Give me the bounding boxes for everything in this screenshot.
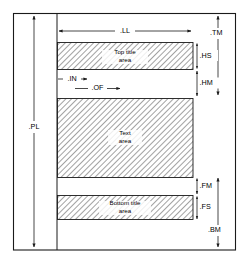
dimension-fm: .FM	[197, 179, 220, 195]
dimension-fm-label: .FM	[200, 181, 212, 190]
block-bottom-title-label-1: Bottom title	[110, 199, 142, 206]
block-bottom-title: Bottom title area	[58, 196, 194, 220]
dimension-fs: .FS	[197, 197, 217, 220]
block-top-title-label-1: Top title	[114, 48, 136, 55]
block-text-area-label-2: area	[119, 137, 132, 144]
dimension-hs: .HS	[197, 44, 218, 69]
dimension-hm: .HM	[197, 71, 220, 96]
dimension-tm-label: .TM	[210, 28, 222, 37]
dimension-of-label: .OF	[92, 83, 105, 92]
dimension-hm-label: .HM	[200, 78, 213, 87]
dimension-pl-label: .PL	[29, 122, 40, 131]
block-text-area: Text area	[58, 99, 194, 178]
dimension-in: .IN	[58, 74, 87, 85]
page-layout-diagram: .PL .LL Top title area .TM .HS	[0, 0, 249, 265]
dimension-in-label: .IN	[67, 74, 76, 83]
dimension-bm-label: .BM	[208, 225, 221, 234]
dimension-fs-label: .FS	[200, 202, 211, 211]
block-text-area-label-1: Text	[119, 129, 131, 136]
dimension-ll: .LL	[59, 26, 191, 37]
dimension-pl: .PL	[25, 16, 43, 247]
block-top-title-label-2: area	[119, 56, 132, 63]
block-bottom-title-label-2: area	[119, 207, 132, 214]
dimension-ll-label: .LL	[120, 26, 130, 35]
dimension-hs-label: .HS	[200, 51, 212, 60]
dimension-of: .OF	[75, 83, 120, 94]
block-top-title: Top title area	[58, 43, 194, 70]
